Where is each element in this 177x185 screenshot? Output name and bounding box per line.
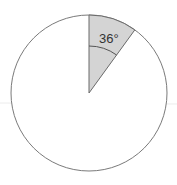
- angle-label: 36°: [99, 31, 119, 46]
- circle-diagram: 36°: [0, 0, 177, 185]
